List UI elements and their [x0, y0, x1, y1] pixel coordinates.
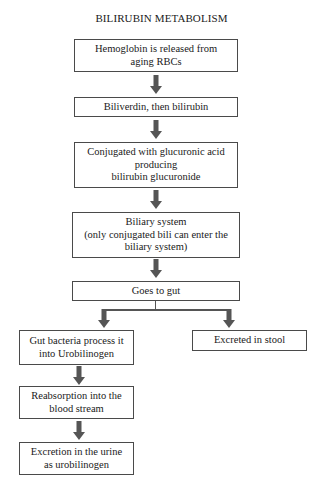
down-arrow-icon [149, 75, 163, 95]
step-reabsorption-box: Reabsorption into the blood stream [19, 386, 134, 419]
down-arrow-icon [149, 190, 163, 210]
down-arrow-icon [72, 421, 86, 441]
down-arrow-icon [72, 366, 86, 386]
step-text: producing [135, 159, 178, 172]
step-text: Gut bacteria process it [29, 335, 123, 348]
step-text: (only conjugated bili can enter the [84, 229, 228, 242]
step-text: Reabsorption into the [31, 390, 121, 403]
down-arrow-icon [149, 259, 163, 279]
step-stool-box: Excreted in stool [192, 330, 307, 351]
step-biliverdin-box: Biliverdin, then bilirubin [74, 97, 238, 117]
step-text: Goes to gut [132, 285, 180, 298]
down-arrow-icon [97, 309, 111, 329]
step-biliary-box: Biliary system (only conjugated bili can… [72, 212, 240, 258]
step-text: Hemoglobin is released from [95, 43, 217, 56]
down-arrow-icon [149, 120, 163, 140]
step-urine-box: Excretion in the urine as urobilinogen [19, 442, 134, 475]
step-text: as urobilinogen [44, 459, 109, 472]
step-text: Biliverdin, then bilirubin [104, 101, 209, 114]
branch-horizontal-line [103, 309, 229, 311]
step-conjugated-box: Conjugated with glucuronic acid producin… [74, 142, 238, 188]
step-hemoglobin-box: Hemoglobin is released from aging RBCs [74, 39, 238, 72]
step-gut-box: Goes to gut [72, 281, 240, 301]
step-text: Conjugated with glucuronic acid [87, 146, 224, 159]
step-text: aging RBCs [130, 56, 181, 69]
step-text: biliary system) [125, 241, 188, 254]
step-text: Excretion in the urine [31, 446, 122, 459]
step-text: Excreted in stool [214, 334, 285, 347]
step-text: into Urobilinogen [39, 348, 114, 361]
step-text: Biliary system [126, 216, 187, 229]
step-bacteria-box: Gut bacteria process it into Urobilinoge… [19, 330, 134, 365]
down-arrow-icon [222, 309, 236, 329]
diagram-title: BILIRUBIN METABOLISM [0, 12, 323, 24]
step-text: blood stream [49, 403, 104, 416]
step-text: bilirubin glucuronide [112, 171, 201, 184]
